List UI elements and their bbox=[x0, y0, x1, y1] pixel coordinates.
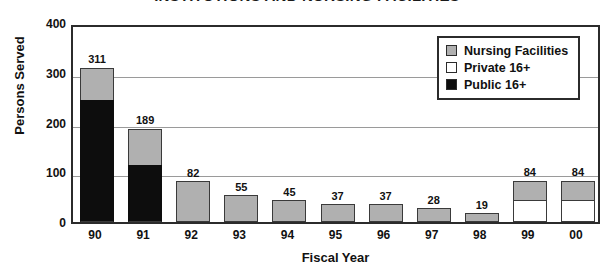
x-tick-label: 93 bbox=[215, 228, 263, 242]
bar-stack bbox=[128, 129, 162, 222]
nursing-facilities-swatch bbox=[446, 45, 457, 56]
bar-stack bbox=[321, 204, 355, 222]
legend-item[interactable]: Nursing Facilities bbox=[446, 42, 568, 59]
y-tick-label: 300 bbox=[32, 67, 66, 81]
bar-stack bbox=[176, 181, 210, 222]
x-axis-title: Fiscal Year bbox=[71, 250, 600, 265]
chart-title: INSTITUTIONS AND NURSING FACILITIES bbox=[0, 0, 614, 4]
bar-group[interactable]: 82 bbox=[176, 23, 210, 222]
x-tick-label: 90 bbox=[71, 228, 119, 242]
x-tick-label: 00 bbox=[552, 228, 600, 242]
bar-value-label: 19 bbox=[476, 199, 488, 211]
private-16-plus-swatch bbox=[446, 62, 457, 73]
bar-segment bbox=[561, 200, 595, 222]
bar-segment bbox=[513, 181, 547, 200]
bar-value-label: 55 bbox=[235, 181, 247, 193]
y-tick-label: 200 bbox=[32, 117, 66, 131]
bar-segment bbox=[176, 181, 210, 222]
bar-group[interactable]: 189 bbox=[128, 23, 162, 222]
y-tick-label: 0 bbox=[32, 216, 66, 230]
bar-stack bbox=[561, 181, 595, 222]
bar-group[interactable]: 311 bbox=[80, 23, 114, 222]
bar-segment bbox=[465, 213, 499, 222]
bar-segment bbox=[369, 204, 403, 222]
bar-value-label: 84 bbox=[524, 166, 536, 178]
x-tick-label: 94 bbox=[263, 228, 311, 242]
x-tick-label: 95 bbox=[311, 228, 359, 242]
bar-segment bbox=[224, 195, 258, 222]
bar-segment bbox=[128, 129, 162, 166]
bar-segment bbox=[513, 200, 547, 222]
bar-stack bbox=[465, 213, 499, 222]
legend-label: Private 16+ bbox=[464, 61, 530, 75]
bar-value-label: 37 bbox=[331, 190, 343, 202]
bar-stack bbox=[80, 68, 114, 222]
bar-stack bbox=[224, 195, 258, 222]
y-tick-label: 100 bbox=[32, 166, 66, 180]
bar-stack bbox=[272, 200, 306, 222]
chart-legend: Nursing FacilitiesPrivate 16+Public 16+ bbox=[437, 36, 580, 100]
bar-value-label: 84 bbox=[572, 166, 584, 178]
legend-label: Nursing Facilities bbox=[464, 44, 568, 58]
x-tick-label: 97 bbox=[408, 228, 456, 242]
bar-value-label: 28 bbox=[428, 194, 440, 206]
bar-group[interactable]: 37 bbox=[369, 23, 403, 222]
y-axis-title: Persons Served bbox=[12, 21, 27, 151]
bar-group[interactable]: 45 bbox=[272, 23, 306, 222]
legend-item[interactable]: Private 16+ bbox=[446, 59, 568, 76]
bar-value-label: 37 bbox=[379, 190, 391, 202]
legend-label: Public 16+ bbox=[464, 78, 526, 92]
legend-item[interactable]: Public 16+ bbox=[446, 76, 568, 93]
bar-segment bbox=[272, 200, 306, 222]
bar-value-label: 45 bbox=[283, 186, 295, 198]
x-tick-label: 99 bbox=[504, 228, 552, 242]
x-tick-label: 92 bbox=[167, 228, 215, 242]
bar-segment bbox=[561, 181, 595, 201]
bar-stack bbox=[513, 181, 547, 222]
x-axis-tick-labels: 9091929394959697989900 bbox=[71, 228, 600, 248]
x-tick-label: 96 bbox=[360, 228, 408, 242]
bar-group[interactable]: 37 bbox=[321, 23, 355, 222]
bar-segment bbox=[80, 68, 114, 101]
bar-stack bbox=[369, 204, 403, 222]
public-16-plus-swatch bbox=[446, 79, 457, 90]
bar-segment bbox=[321, 204, 355, 222]
bar-group[interactable]: 55 bbox=[224, 23, 258, 222]
y-tick-label: 400 bbox=[32, 17, 66, 31]
x-tick-label: 98 bbox=[456, 228, 504, 242]
bar-value-label: 189 bbox=[136, 114, 154, 126]
bar-segment bbox=[128, 165, 162, 222]
y-axis-tick-labels: 4003002001000 bbox=[28, 0, 66, 274]
bar-segment bbox=[80, 100, 114, 222]
bar-segment bbox=[417, 208, 451, 222]
bar-stack bbox=[417, 208, 451, 222]
chart-screenshot: INSTITUTIONS AND NURSING FACILITIES Pers… bbox=[0, 0, 614, 274]
bar-value-label: 82 bbox=[187, 167, 199, 179]
bar-value-label: 311 bbox=[88, 53, 106, 65]
x-tick-label: 91 bbox=[119, 228, 167, 242]
